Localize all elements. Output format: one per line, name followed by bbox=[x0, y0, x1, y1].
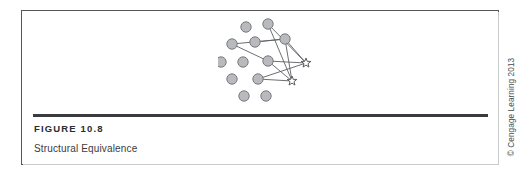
network-node-circle bbox=[263, 56, 273, 66]
network-graphic bbox=[218, 15, 328, 107]
network-node-circle bbox=[253, 74, 263, 84]
caption-divider bbox=[33, 114, 488, 117]
edge-layer bbox=[232, 24, 306, 81]
network-node-circle bbox=[218, 57, 226, 67]
network-node-circle bbox=[263, 19, 273, 29]
figure-number-label: FIGURE 10.8 bbox=[34, 122, 474, 135]
figure-caption-text: Structural Equivalence bbox=[34, 142, 474, 155]
network-node-circle bbox=[241, 22, 251, 32]
network-edge bbox=[268, 24, 292, 81]
network-node-circle bbox=[239, 91, 249, 101]
network-node-circle bbox=[261, 91, 271, 101]
figure-root: FIGURE 10.8 Structural Equivalence © Cen… bbox=[0, 0, 530, 175]
network-node-circle bbox=[238, 57, 248, 67]
caption-block: FIGURE 10.8 Structural Equivalence bbox=[34, 122, 474, 155]
credit-line: © Cengage Learning 2013 bbox=[503, 48, 519, 166]
network-node-circle bbox=[250, 37, 260, 47]
network-node-circle bbox=[280, 34, 290, 44]
network-node-star bbox=[287, 76, 297, 85]
node-layer bbox=[218, 19, 290, 101]
network-node-circle bbox=[227, 39, 237, 49]
figure-frame: FIGURE 10.8 Structural Equivalence bbox=[21, 10, 499, 165]
network-diagram bbox=[22, 11, 498, 107]
network-edge bbox=[268, 61, 306, 63]
network-edge bbox=[232, 44, 268, 61]
copyright-text: © Cengage Learning 2013 bbox=[507, 58, 516, 156]
network-node-circle bbox=[227, 74, 237, 84]
